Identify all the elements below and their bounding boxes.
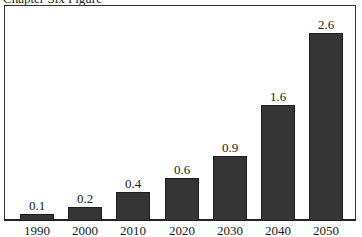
value-label-2050: 2.6: [301, 17, 351, 33]
x-tick-1990: 1990: [12, 223, 62, 237]
x-tick-2030: 2030: [205, 223, 255, 237]
x-tick-2020: 2020: [157, 223, 207, 237]
bar-1990: [20, 214, 54, 221]
value-label-2020: 0.6: [157, 162, 207, 178]
bar-2040: [261, 105, 295, 221]
bar-2010: [116, 192, 150, 221]
value-label-1990: 0.1: [12, 198, 62, 214]
x-tick-2050: 2050: [301, 223, 351, 237]
x-tick-2010: 2010: [108, 223, 158, 237]
value-label-2040: 1.6: [253, 89, 303, 105]
bar-2050: [309, 33, 343, 221]
bar-2000: [68, 207, 102, 221]
bar-2030: [213, 156, 247, 221]
x-tick-2000: 2000: [60, 223, 110, 237]
bar-2020: [165, 178, 199, 221]
value-label-2030: 0.9: [205, 140, 255, 156]
x-tick-2040: 2040: [253, 223, 303, 237]
value-label-2010: 0.4: [108, 176, 158, 192]
value-label-2000: 0.2: [60, 191, 110, 207]
